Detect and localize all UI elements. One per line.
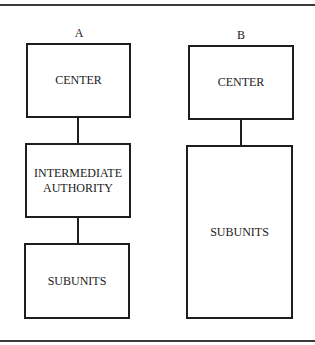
a-connector-2 — [77, 218, 79, 243]
a-intermediate-box: INTERMEDIATE AUTHORITY — [25, 143, 131, 218]
b-center-box: CENTER — [188, 45, 294, 120]
b-center-text: CENTER — [218, 75, 265, 90]
column-b-label: B — [231, 28, 251, 43]
a-center-box: CENTER — [26, 43, 131, 118]
b-subunits-box: SUBUNITS — [186, 145, 293, 319]
column-a-label: A — [69, 26, 89, 41]
a-subunits-text: SUBUNITS — [48, 274, 107, 289]
a-center-text: CENTER — [55, 73, 102, 88]
a-subunits-box: SUBUNITS — [24, 243, 130, 319]
a-connector-1 — [77, 118, 79, 144]
bottom-rule — [0, 340, 315, 342]
top-rule — [0, 4, 315, 6]
b-connector-1 — [240, 120, 242, 146]
a-intermediate-text: INTERMEDIATE AUTHORITY — [28, 166, 128, 196]
b-subunits-text: SUBUNITS — [210, 225, 269, 240]
